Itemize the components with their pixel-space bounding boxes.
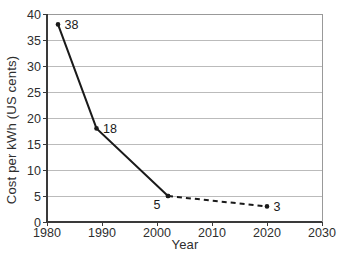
data-point-marker [166,194,171,199]
chart-canvas: 1980199020002010202020300510152025303540… [0,0,348,260]
cost-per-kwh-line-chart: 1980199020002010202020300510152025303540… [0,0,348,260]
x-tick-label: 2020 [253,226,281,240]
data-point-label: 5 [154,198,161,212]
data-point-label: 38 [65,18,79,32]
y-tick-label: 0 [34,216,41,230]
x-tick-label: 2030 [308,226,336,240]
y-axis-title: Cost per kWh (US cents) [4,56,19,204]
data-point-marker [56,22,61,27]
data-point-label: 18 [103,122,117,136]
data-point-marker [265,204,270,209]
series-projected-cost-line [168,196,267,206]
y-tick-label: 40 [27,8,41,22]
y-tick-label: 25 [27,86,41,100]
data-point-label: 3 [274,200,281,214]
data-point-marker [94,126,99,131]
x-axis-title: Year [171,237,198,252]
y-tick-label: 30 [27,60,41,74]
y-tick-label: 10 [27,164,41,178]
x-tick-label: 1990 [88,226,116,240]
x-tick-label: 2000 [143,226,171,240]
x-tick-label: 2010 [198,226,226,240]
y-tick-label: 5 [34,190,41,204]
y-tick-label: 20 [27,112,41,126]
y-tick-label: 35 [27,34,41,48]
y-tick-label: 15 [27,138,41,152]
